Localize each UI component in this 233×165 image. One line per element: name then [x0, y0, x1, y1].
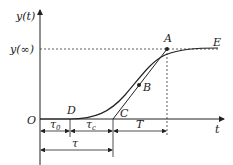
point-b — [137, 83, 141, 87]
label-a: A — [163, 32, 172, 45]
step-response-diagram: y(t) y(∞) O t A B C D E τ0 τc T τ — [0, 0, 233, 165]
label-e: E — [212, 36, 221, 49]
y-axis-label: y(t) — [15, 10, 35, 23]
label-d: D — [66, 104, 76, 117]
point-a — [165, 47, 169, 51]
x-axis-label: t — [215, 123, 220, 136]
tau-label: τ — [72, 137, 79, 150]
label-c: C — [120, 107, 129, 120]
tauc-label: τc — [86, 118, 96, 132]
steady-state-label: y(∞) — [9, 43, 34, 56]
label-b: B — [142, 81, 151, 94]
origin-label: O — [27, 114, 36, 127]
t-label: T — [136, 118, 145, 131]
tau0-label: τ0 — [50, 118, 61, 132]
